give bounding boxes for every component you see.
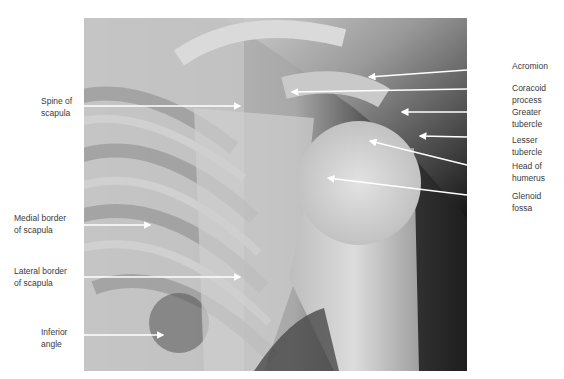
label-lateral-border: Lateral border of scapula	[14, 265, 67, 289]
arrow-head-of-humerus	[370, 141, 467, 165]
label-greater-tubercle: Greater tubercle	[512, 106, 542, 130]
label-lesser-tubercle: Lesser tubercle	[512, 134, 542, 158]
arrow-coracoid-process	[292, 89, 467, 92]
label-coracoid-process: Coracoid process	[512, 82, 546, 106]
arrow-glenoid-fossa	[328, 178, 467, 195]
annotation-arrows	[0, 0, 564, 379]
label-head-of-humerus: Head of humerus	[512, 160, 545, 184]
label-inferior-angle: Inferior angle	[41, 326, 67, 350]
arrow-acromion	[369, 70, 467, 77]
label-medial-border: Medial border of scapula	[14, 212, 66, 236]
label-glenoid-fossa: Glenoid fossa	[512, 190, 541, 214]
label-spine-of-scapula: Spine of scapula	[41, 95, 72, 119]
arrow-lesser-tubercle	[420, 136, 467, 137]
label-acromion: Acromion	[512, 60, 548, 72]
